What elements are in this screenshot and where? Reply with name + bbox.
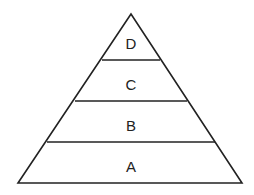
pyramid-diagram: D C B A (0, 0, 254, 195)
tier-label-c: C (126, 76, 137, 93)
tier-label-d: D (126, 35, 137, 52)
tier-label-a: A (126, 158, 136, 175)
tier-label-b: B (126, 117, 136, 134)
